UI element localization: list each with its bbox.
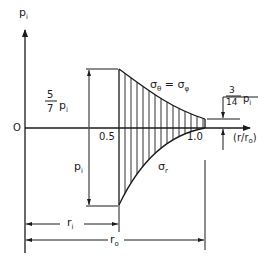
dimension-5-7-pi: 5 7 pi	[45, 69, 118, 127]
stress-distribution-diagram: pi O 0.5 1.0 (r/ro) σθ = σφ σr 5 7 pi	[0, 0, 275, 265]
x-tick-0-5: 0.5	[99, 131, 115, 142]
svg-text:pi: pi	[59, 99, 68, 114]
sigma-theta-curve	[119, 69, 205, 119]
svg-text:pi: pi	[74, 160, 83, 175]
sigma-theta-label: σθ = σφ	[150, 78, 189, 93]
x-axis: O 0.5 1.0 (r/ro)	[13, 122, 257, 145]
svg-text:3: 3	[229, 85, 235, 95]
origin-label: O	[13, 122, 21, 133]
dimension-ri: ri	[26, 216, 118, 231]
svg-text:pi: pi	[243, 93, 251, 107]
svg-text:5: 5	[47, 89, 53, 100]
svg-text:ri: ri	[67, 216, 74, 231]
svg-text:7: 7	[47, 103, 53, 114]
sigma-r-label: σr	[158, 160, 168, 175]
svg-text:ro: ro	[110, 233, 119, 248]
x-axis-label: (r/ro)	[233, 132, 257, 145]
y-axis-label: p	[19, 6, 26, 19]
dimension-ro: ro	[26, 233, 204, 248]
svg-text:pi: pi	[19, 6, 28, 21]
svg-text:14: 14	[226, 97, 238, 107]
